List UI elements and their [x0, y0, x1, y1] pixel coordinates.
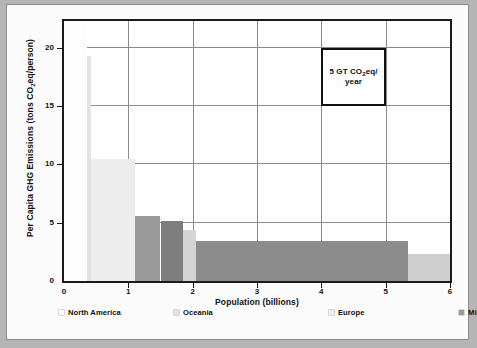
figure-card: 5 GT CO2eq/ year 05101520 0123456 Per Ca…: [7, 5, 468, 339]
bar-sub-saharan-africa: [408, 254, 450, 281]
legend-swatch-icon: [459, 310, 464, 315]
bar-south-america: [161, 221, 184, 281]
legend-swatch-icon: [59, 310, 64, 315]
legend-item-north-america[interactable]: North America: [59, 307, 174, 317]
annotation-line2: year: [345, 77, 362, 86]
annotation-line1-post: eq/: [366, 67, 378, 76]
legend-item-europe[interactable]: Europe: [329, 307, 459, 317]
annotation-line1-pre: 5 GT CO: [329, 67, 362, 76]
x-axis-title: Population (billions): [62, 297, 452, 307]
x-tick-label-4: 4: [306, 287, 336, 296]
y-tickmark-5: [57, 223, 62, 224]
x-tick-label-2: 2: [178, 287, 208, 296]
x-tick-label-1: 1: [113, 287, 143, 296]
legend-item-middle-east-north-africa[interactable]: Middle East/North Africa: [459, 307, 477, 317]
bar-north-america: [64, 21, 87, 281]
legend-label: North America: [68, 308, 121, 317]
figure-root: 5 GT CO2eq/ year 05101520 0123456 Per Ca…: [0, 0, 477, 348]
legend: North AmericaOceaniaEuropeMiddle East/No…: [59, 307, 459, 317]
legend-swatch-icon: [174, 310, 179, 315]
gridline-vertical: [450, 21, 451, 281]
y-tickmark-20: [57, 48, 62, 49]
legend-swatch-icon: [329, 310, 334, 315]
y-tickmark-10: [57, 164, 62, 165]
x-tickmark-5: [386, 283, 387, 288]
bar-asia: [196, 241, 408, 281]
y-axis-title-post: eq/person): [25, 39, 35, 83]
x-tick-label-3: 3: [242, 287, 272, 296]
x-tickmark-3: [257, 283, 258, 288]
y-tick-label-0: 0: [14, 276, 54, 285]
y-tickmark-15: [57, 106, 62, 107]
y-axis-title-pre: Per Capita GHG Emissions (tons CO: [25, 87, 35, 237]
x-tick-label-0: 0: [49, 287, 79, 296]
bar-middle-east-north-africa: [135, 216, 161, 281]
x-tickmark-6: [450, 283, 451, 288]
annotation-subscript: 2: [362, 71, 365, 77]
bar-europe: [91, 159, 135, 281]
x-tickmark-4: [321, 283, 322, 288]
x-tick-label-6: 6: [435, 287, 465, 296]
x-tick-label-5: 5: [371, 287, 401, 296]
y-axis-title-subscript: 2: [30, 83, 36, 86]
plot-area: 5 GT CO2eq/ year: [62, 19, 452, 283]
legend-label: Middle East/North Africa: [468, 308, 477, 317]
annotation-5gt-box: 5 GT CO2eq/ year: [321, 48, 385, 106]
x-tickmark-2: [193, 283, 194, 288]
bar-central-america: [183, 230, 196, 281]
legend-label: Europe: [338, 308, 364, 317]
y-axis-title: Per Capita GHG Emissions (tons CO2eq/per…: [25, 23, 35, 253]
legend-label: Oceania: [183, 308, 213, 317]
legend-item-oceania[interactable]: Oceania: [174, 307, 329, 317]
annotation-label: 5 GT CO2eq/ year: [326, 67, 380, 87]
x-tickmark-1: [128, 283, 129, 288]
